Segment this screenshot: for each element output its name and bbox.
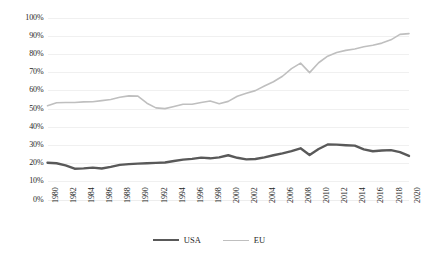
- y-tick-50: 50%: [0, 104, 44, 113]
- legend-line-swatch-eu: [223, 240, 249, 241]
- x-tick-2018: 2018: [395, 187, 404, 203]
- x-tick-1980: 1980: [51, 187, 60, 203]
- x-tick-2012: 2012: [340, 187, 349, 203]
- x-tick-2014: 2014: [358, 187, 367, 203]
- legend-item-usa[interactable]: USA: [153, 236, 201, 245]
- y-tick-10: 10%: [0, 176, 44, 185]
- x-tick-1998: 1998: [214, 187, 223, 203]
- y-tick-80: 80%: [0, 49, 44, 58]
- y-tick-0: 0%: [0, 195, 44, 204]
- series-line-usa: [48, 144, 410, 168]
- x-tick-1984: 1984: [87, 187, 96, 203]
- series-lines: [48, 34, 410, 169]
- legend-item-eu[interactable]: EU: [223, 236, 265, 245]
- y-tick-30: 30%: [0, 140, 44, 149]
- gridlines: [48, 18, 410, 200]
- legend-label-eu: EU: [254, 236, 265, 245]
- y-tick-60: 60%: [0, 85, 44, 94]
- x-tick-2000: 2000: [232, 187, 241, 203]
- x-tick-1988: 1988: [123, 187, 132, 203]
- y-tick-70: 70%: [0, 67, 44, 76]
- x-tick-1986: 1986: [105, 187, 114, 203]
- chart-legend: USA EU: [0, 236, 418, 245]
- x-tick-2002: 2002: [250, 187, 259, 203]
- x-tick-1990: 1990: [141, 187, 150, 203]
- x-tick-2006: 2006: [286, 187, 295, 203]
- legend-line-swatch-usa: [153, 239, 179, 241]
- legend-label-usa: USA: [184, 236, 201, 245]
- y-tick-20: 20%: [0, 158, 44, 167]
- y-tick-40: 40%: [0, 122, 44, 131]
- series-line-eu: [48, 34, 410, 109]
- x-tick-2020: 2020: [413, 187, 422, 203]
- x-tick-1982: 1982: [69, 187, 78, 203]
- x-tick-2016: 2016: [376, 187, 385, 203]
- x-tick-2008: 2008: [304, 187, 313, 203]
- y-tick-100: 100%: [0, 13, 44, 22]
- x-tick-1996: 1996: [196, 187, 205, 203]
- x-tick-2004: 2004: [268, 187, 277, 203]
- x-tick-1994: 1994: [178, 187, 187, 203]
- y-tick-90: 90%: [0, 31, 44, 40]
- x-tick-1992: 1992: [160, 187, 169, 203]
- x-tick-2010: 2010: [322, 187, 331, 203]
